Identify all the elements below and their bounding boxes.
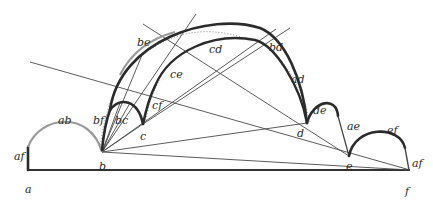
label-ef: ef <box>387 124 400 137</box>
label-point-b: b <box>99 160 106 173</box>
label-ad: ad <box>291 73 305 86</box>
label-ab: ab <box>58 114 72 127</box>
label-point-f: f <box>404 185 411 198</box>
label-cf: cf <box>152 99 164 112</box>
geometry-diagram: a b c d e f af ab bf bc be cf ce cd bd a… <box>0 0 433 205</box>
label-bd: bd <box>269 41 283 54</box>
dotted-arc-outer <box>100 32 250 148</box>
label-ae: ae <box>347 120 361 133</box>
label-point-a: a <box>25 183 32 196</box>
label-ce: ce <box>170 68 183 81</box>
label-point-e: e <box>346 160 353 173</box>
label-af-left: af <box>14 150 27 163</box>
label-de: de <box>313 104 327 117</box>
label-cd: cd <box>209 43 222 56</box>
label-af-right: af <box>412 157 425 170</box>
label-bf: bf <box>93 114 106 127</box>
segment-af-right <box>405 148 409 170</box>
label-be: be <box>137 36 151 49</box>
label-bc: bc <box>115 114 128 127</box>
label-point-d: d <box>297 127 304 140</box>
label-point-c: c <box>140 130 146 143</box>
